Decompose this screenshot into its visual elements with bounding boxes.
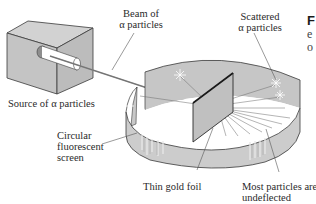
label-screen-line2: fluorescent <box>57 141 104 152</box>
label-beam-line1: Beam of <box>113 8 169 19</box>
label-source: Source of α particles <box>8 98 95 109</box>
label-screen-line1: Circular <box>57 130 104 141</box>
label-scattered-line2: α particles <box>232 22 288 33</box>
label-undeflected-line1: Most particles are <box>242 181 316 192</box>
label-beam: Beam of α particles <box>113 8 169 30</box>
label-screen-line3: screen <box>57 152 104 163</box>
label-beam-line2: α particles <box>113 19 169 30</box>
label-scattered-line1: Scattered <box>232 11 288 22</box>
rutherford-diagram: Beam of α particles Scattered α particle… <box>0 0 316 204</box>
label-foil: Thin gold foil <box>143 181 201 192</box>
label-undeflected: Most particles are undeflected <box>242 181 316 203</box>
source-box <box>7 21 93 94</box>
figure-caption-fragment: F e o <box>307 14 315 54</box>
caption-fig-letter: F <box>307 13 315 28</box>
caption-line3: o <box>307 41 315 54</box>
leader-beam <box>112 33 134 70</box>
label-undeflected-line2: undeflected <box>242 192 316 203</box>
label-screen: Circular fluorescent screen <box>57 130 104 163</box>
label-scattered: Scattered α particles <box>232 11 288 33</box>
